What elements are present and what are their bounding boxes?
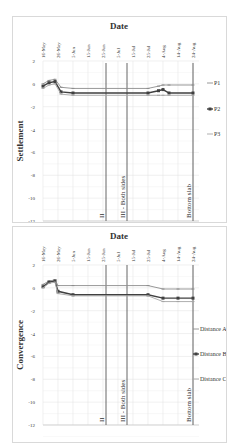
- chart-title: Date: [110, 231, 128, 241]
- square-marker: [48, 81, 51, 84]
- square-marker: [177, 297, 180, 300]
- y-tick-label: -6: [31, 150, 36, 155]
- y-axis-label: Settlement: [15, 121, 25, 162]
- square-marker: [72, 92, 75, 95]
- x-tick-label: 26-May: [56, 246, 61, 262]
- y-tick-label: 2: [33, 263, 36, 268]
- y-tick-label: -10: [28, 400, 35, 405]
- y-tick-label: -8: [31, 377, 36, 382]
- y-tick-label: -4: [31, 128, 36, 133]
- y-tick-label: -6: [31, 354, 36, 359]
- x-tick-label: 15-Jul: [131, 249, 136, 262]
- x-tick-label: 4-Aug: [161, 249, 166, 262]
- settlement-chart-panel: Date20-2-4-6-8-10-1216-May26-May5-Jun15-…: [12, 16, 227, 223]
- event-label: Bottom slab: [185, 387, 193, 422]
- square-marker: [192, 297, 195, 300]
- y-tick-label: -8: [31, 173, 36, 178]
- y-tick-label: -4: [31, 332, 36, 337]
- event-label: III - Both sides: [119, 176, 127, 218]
- x-tick-label: 5-Jul: [116, 47, 121, 58]
- square-marker: [147, 92, 150, 95]
- x-tick-label: 5-Jul: [116, 251, 121, 262]
- x-tick-label: 24-Aug: [191, 42, 196, 58]
- settlement-chart: Date20-2-4-6-8-10-1216-May26-May5-Jun15-…: [13, 17, 226, 222]
- y-tick-label: -2: [31, 309, 36, 314]
- x-tick-label: 25-Jul: [146, 249, 151, 262]
- x-tick-label: 24-Aug: [191, 246, 196, 262]
- legend-label: P2: [214, 106, 220, 112]
- square-marker: [157, 89, 160, 92]
- x-tick-label: 14-Aug: [176, 42, 181, 58]
- event-label: II: [98, 213, 106, 218]
- y-tick-label: 2: [33, 59, 36, 64]
- square-marker: [54, 80, 57, 83]
- square-marker: [162, 297, 165, 300]
- convergence-chart-panel: Date20-2-4-6-8-10-1216-May26-May5-Jun15-…: [12, 226, 227, 443]
- legend-label: P1: [214, 80, 220, 86]
- x-tick-label: 4-Aug: [161, 45, 166, 58]
- x-tick-label: 16-May: [41, 246, 46, 262]
- event-label: II: [98, 417, 106, 422]
- legend-label: Distance A: [200, 326, 226, 332]
- event-label: III - Both sides: [119, 380, 127, 422]
- legend-marker: [195, 353, 198, 356]
- convergence-chart: Date20-2-4-6-8-10-1216-May26-May5-Jun15-…: [13, 227, 226, 442]
- square-marker: [42, 85, 45, 88]
- square-marker: [168, 92, 171, 95]
- legend-label: Distance B: [200, 351, 226, 357]
- legend-label: P3: [214, 131, 220, 137]
- y-tick-label: -10: [28, 196, 35, 201]
- y-tick-label: 0: [33, 286, 36, 291]
- legend-marker: [209, 108, 212, 111]
- legend-label: Distance C: [200, 376, 226, 382]
- x-tick-label: 25-Jul: [146, 45, 151, 58]
- y-tick-label: -12: [28, 219, 35, 222]
- event-label: Bottom slab: [185, 183, 193, 218]
- x-tick-label: 15-Jun: [86, 44, 91, 58]
- x-tick-label: 5-Jun: [71, 46, 76, 58]
- chart-title: Date: [110, 21, 128, 31]
- x-tick-label: 16-May: [41, 42, 46, 58]
- x-tick-label: 14-Aug: [176, 246, 181, 262]
- y-tick-label: -2: [31, 105, 36, 110]
- square-marker: [192, 92, 195, 95]
- y-axis-label: Convergence: [15, 320, 25, 370]
- x-tick-label: 25-Jun: [101, 44, 106, 58]
- x-tick-label: 26-May: [56, 42, 61, 58]
- y-tick-label: -12: [28, 423, 35, 428]
- x-tick-label: 25-Jun: [101, 248, 106, 262]
- y-tick-label: 0: [33, 82, 36, 87]
- x-tick-label: 5-Jun: [71, 250, 76, 262]
- square-marker: [162, 88, 165, 91]
- x-tick-label: 15-Jul: [131, 45, 136, 58]
- x-tick-label: 15-Jun: [86, 248, 91, 262]
